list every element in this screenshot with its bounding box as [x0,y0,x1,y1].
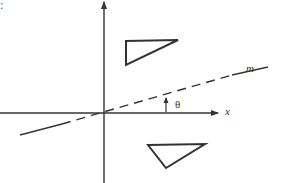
diagram-svg [0,0,281,183]
theta-label: θ [175,99,180,110]
x-axis-label: x [225,106,230,117]
line-m-solid-left [20,124,62,135]
diagram-canvas: : m θ x [0,0,281,183]
lower-triangle [148,144,205,168]
line-m-dashed [62,75,232,124]
line-m-label: m [246,63,254,74]
upper-triangle [126,40,178,65]
